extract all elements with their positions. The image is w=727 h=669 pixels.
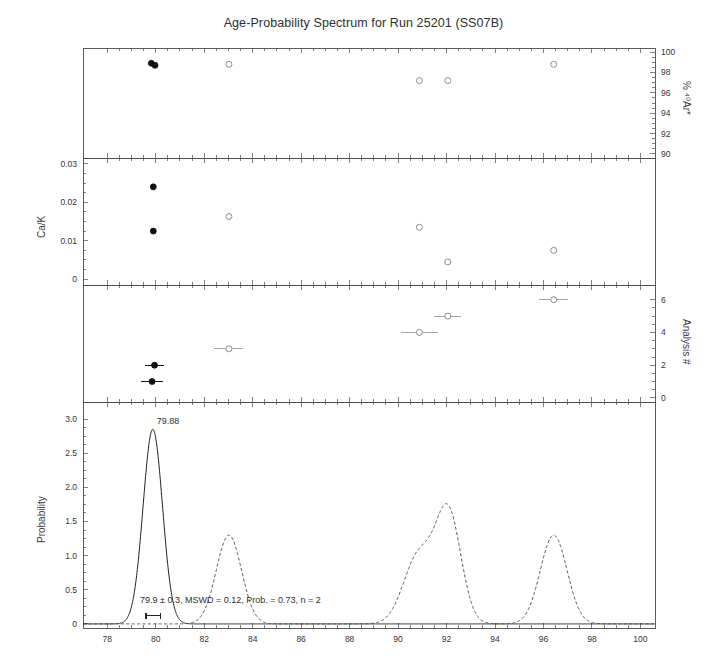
y-tick-label: 96	[661, 88, 671, 98]
probability-curve-all-analyses-curve	[83, 504, 655, 624]
y-tick-label: 0	[72, 274, 77, 284]
y-tick-label: 94	[661, 108, 671, 118]
y-tick-label: 1.5	[65, 516, 77, 526]
data-point-radiogenic-yield	[445, 78, 451, 84]
y-tick-label: 0.01	[60, 236, 77, 246]
y-tick-label: 0.02	[60, 197, 77, 207]
x-tick-label: 88	[345, 634, 355, 644]
data-point-ca-k-ratio	[445, 259, 451, 265]
y-tick-label: 2	[661, 360, 666, 370]
panel-frame-radiogenic-yield	[83, 48, 655, 158]
data-point-ca-k-ratio	[150, 184, 156, 190]
y-tick-label: 98	[661, 67, 671, 77]
data-point-radiogenic-yield	[416, 78, 422, 84]
y-tick-label: 2.0	[65, 482, 77, 492]
y-tick-label: 92	[661, 129, 671, 139]
data-point-ca-k-ratio	[226, 213, 232, 219]
x-tick-label: 80	[151, 634, 161, 644]
y-tick-label: 0	[661, 393, 666, 403]
panel-frame-ca-k-ratio	[83, 158, 655, 285]
x-tick-label: 92	[442, 634, 452, 644]
data-point-analysis	[551, 297, 557, 303]
statistics-annotation: 79.9 ± 0.3, MSWD = 0.12, Prob. = 0.73, n…	[140, 595, 321, 605]
data-point-radiogenic-yield	[152, 62, 158, 68]
data-point-analysis	[152, 362, 158, 368]
y-tick-label: 0.5	[65, 585, 77, 595]
data-point-radiogenic-yield	[226, 61, 232, 67]
x-tick-label: 78	[103, 634, 113, 644]
age-probability-plot: 10098969492900.030.020.01064203.02.52.01…	[0, 0, 727, 669]
x-tick-label: 84	[248, 634, 258, 644]
y-tick-label: 0.03	[60, 159, 77, 169]
axis-label-ca-k: Ca/K	[36, 215, 47, 237]
y-tick-label: 90	[661, 149, 671, 159]
x-tick-label: 100	[633, 634, 647, 644]
x-tick-label: 98	[587, 634, 597, 644]
data-point-analysis	[149, 379, 155, 385]
data-point-radiogenic-yield	[551, 61, 557, 67]
panel-frame-analysis-number	[83, 285, 655, 402]
peak-age-label: 79.88	[157, 416, 180, 426]
y-tick-label: 100	[661, 47, 675, 57]
y-tick-label: 3.0	[65, 414, 77, 424]
x-tick-label: 82	[199, 634, 209, 644]
y-tick-label: 1.0	[65, 551, 77, 561]
x-tick-label: 96	[539, 634, 549, 644]
axis-label-analysis-number: Analysis #	[681, 319, 692, 365]
page-title: Age-Probability Spectrum for Run 25201 (…	[0, 16, 727, 30]
data-point-ca-k-ratio	[150, 228, 156, 234]
axis-label-probability: Probability	[36, 496, 47, 543]
y-tick-label: 4	[661, 327, 666, 337]
data-point-analysis	[416, 329, 422, 335]
data-point-analysis	[226, 346, 232, 352]
data-point-ca-k-ratio	[416, 224, 422, 230]
x-tick-label: 86	[296, 634, 306, 644]
axis-label-radiogenic-yield: % ⁴⁰Ar*	[681, 81, 692, 115]
data-point-analysis	[445, 313, 451, 319]
x-tick-label: 90	[393, 634, 403, 644]
x-tick-label: 94	[490, 634, 500, 644]
figure-canvas: Age-Probability Spectrum for Run 25201 (…	[0, 0, 727, 669]
data-point-ca-k-ratio	[551, 247, 557, 253]
panel-frame-probability-density	[83, 402, 655, 628]
y-tick-label: 2.5	[65, 448, 77, 458]
y-tick-label: 0	[72, 619, 77, 629]
y-tick-label: 6	[661, 295, 666, 305]
